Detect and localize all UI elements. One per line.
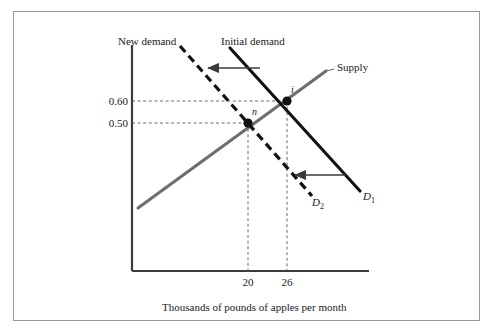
supply-demand-plot: [14, 12, 479, 320]
equilibrium-point-i: [282, 96, 291, 105]
point-n-label: n: [252, 107, 257, 117]
initial-demand-label: Initial demand: [221, 36, 285, 47]
d1-letter: D: [363, 190, 371, 202]
supply-label-leader: [326, 69, 334, 71]
d2-letter: D: [312, 196, 320, 208]
y-tick-060: 0.60: [98, 96, 128, 107]
supply-curve: [138, 71, 326, 208]
figure-frame: New demand Initial demand Supply i n D1 …: [13, 11, 480, 321]
d1-label: D1: [363, 191, 375, 205]
equilibrium-point-n: [243, 118, 252, 127]
new-demand-label: New demand: [118, 36, 176, 47]
d2-subscript: 2: [320, 202, 324, 211]
d1-subscript: 1: [371, 196, 375, 205]
y-tick-050: 0.50: [98, 118, 128, 129]
x-tick-20: 20: [236, 277, 260, 288]
x-tick-26: 26: [275, 277, 299, 288]
x-axis-title: Thousands of pounds of apples per month: [162, 302, 347, 313]
point-i-label: i: [291, 85, 294, 95]
supply-label: Supply: [337, 62, 368, 73]
figure-page: New demand Initial demand Supply i n D1 …: [0, 0, 493, 335]
d2-label: D2: [312, 197, 324, 211]
